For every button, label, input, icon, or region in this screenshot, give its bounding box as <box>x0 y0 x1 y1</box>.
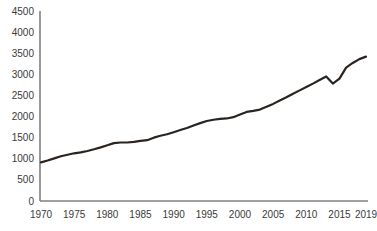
y-axis-tick-label: 2000 <box>12 111 35 122</box>
x-axis-tick-label: 1980 <box>96 209 119 220</box>
x-axis-tick-label: 1970 <box>30 209 53 220</box>
data-series-line <box>41 57 366 163</box>
y-axis-tick-label: 500 <box>17 174 34 185</box>
x-axis-tick-labels: 1970197519801985199019952000200520102015… <box>30 209 377 220</box>
y-axis-tick-label: 2500 <box>12 90 35 101</box>
y-axis-tick-label: 3000 <box>12 69 35 80</box>
y-axis-tick-label: 4000 <box>12 27 35 38</box>
y-axis-tick-label: 1000 <box>12 153 35 164</box>
y-axis-tick-label: 4500 <box>12 6 35 17</box>
x-axis-tick-label: 1995 <box>196 209 219 220</box>
x-axis-tick-label: 2015 <box>328 209 351 220</box>
x-axis-tick-label: 1990 <box>163 209 186 220</box>
x-axis-tick-label: 2005 <box>262 209 285 220</box>
y-axis-tick-labels: 050010001500200025003000350040004500 <box>12 6 35 207</box>
y-axis-tick-label: 1500 <box>12 132 35 143</box>
x-axis-tick-label: 1975 <box>63 209 86 220</box>
y-axis-tick-label: 3500 <box>12 48 35 59</box>
x-axis-tick-label: 2000 <box>229 209 252 220</box>
y-axis-tick-label: 0 <box>28 196 34 207</box>
x-axis-tick-label: 1985 <box>129 209 152 220</box>
line-chart: 050010001500200025003000350040004500 197… <box>0 0 377 231</box>
plot-area: 050010001500200025003000350040004500 197… <box>12 6 377 221</box>
chart-canvas: 050010001500200025003000350040004500 197… <box>0 0 377 231</box>
x-axis-tick-label: 2019 <box>355 209 377 220</box>
x-axis-tick-label: 2010 <box>295 209 318 220</box>
